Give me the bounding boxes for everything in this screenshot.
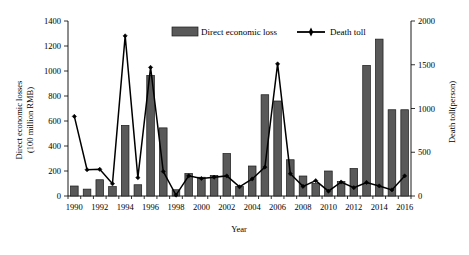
bar xyxy=(287,160,295,196)
left-axis-tick-labels: 0200400600800100012001400 xyxy=(44,16,61,201)
y2-tick-label: 2000 xyxy=(418,16,435,26)
y-tick-label: 800 xyxy=(48,91,61,101)
x-tick-label: 2010 xyxy=(320,202,337,212)
y2-tick-label: 1000 xyxy=(418,104,435,114)
right-axis-tick-labels: 0500100015002000 xyxy=(418,16,435,201)
x-tick-label: 1992 xyxy=(91,202,108,212)
legend-label-direct-economic-loss: Direct economic loss xyxy=(201,27,277,37)
x-tick-label: 1996 xyxy=(142,202,159,212)
y-tick-label: 1200 xyxy=(44,41,61,51)
y-tick-label: 400 xyxy=(48,141,61,151)
bar xyxy=(71,186,79,196)
x-tick-label: 2014 xyxy=(371,202,389,212)
bar xyxy=(350,169,358,197)
bar xyxy=(375,39,383,196)
data-point-marker xyxy=(85,168,89,172)
x-tick-label: 2008 xyxy=(295,202,312,212)
y-tick-label: 1000 xyxy=(44,66,61,76)
x-tick-label: 2006 xyxy=(269,202,286,212)
right-axis-ticks xyxy=(411,21,415,196)
x-tick-label: 2012 xyxy=(345,202,362,212)
data-point-marker xyxy=(72,114,76,118)
bar-series-direct-economic-loss xyxy=(71,39,409,196)
x-tick-label: 1990 xyxy=(66,202,83,212)
legend-label-death-toll: Death toll xyxy=(330,27,366,37)
x-tick-label: 2016 xyxy=(396,202,413,212)
x-tick-label: 2004 xyxy=(244,202,262,212)
bar xyxy=(312,184,320,197)
data-point-marker xyxy=(136,176,140,180)
y-tick-label: 200 xyxy=(48,166,61,176)
left-axis-ticks xyxy=(64,21,68,196)
y2-tick-label: 0 xyxy=(418,191,422,201)
bar xyxy=(159,128,167,196)
y2-axis-title: Death toll(person) xyxy=(447,81,457,143)
chart-legend: Direct economic loss Death toll xyxy=(172,27,366,37)
bar xyxy=(96,180,104,196)
y-tick-label: 0 xyxy=(57,191,61,201)
bar xyxy=(401,110,409,196)
bar xyxy=(363,65,371,196)
data-point-marker xyxy=(276,62,280,66)
bar xyxy=(274,101,282,196)
data-point-marker xyxy=(123,34,127,38)
legend-swatch-bar-icon xyxy=(172,27,198,36)
x-tick-label: 2002 xyxy=(218,202,235,212)
x-tick-label: 1994 xyxy=(117,202,135,212)
bar xyxy=(388,110,396,196)
bar xyxy=(121,125,129,196)
x-tick-label: 2000 xyxy=(193,202,210,212)
chart-canvas: 0200400600800100012001400 05001000150020… xyxy=(0,0,469,255)
legend-marker-icon xyxy=(309,28,313,37)
bar xyxy=(109,187,117,196)
y2-tick-label: 500 xyxy=(418,147,431,157)
y-tick-label: 600 xyxy=(48,116,61,126)
data-point-marker xyxy=(148,65,152,69)
x-axis-tick-labels: 1990199219941996199820002002200420062008… xyxy=(66,202,413,212)
y2-tick-label: 1500 xyxy=(418,60,435,70)
y-tick-label: 1400 xyxy=(44,16,61,26)
bar xyxy=(83,189,91,196)
y-axis-title-line2: (100 million RMB) xyxy=(25,87,35,153)
chart-figure: 0200400600800100012001400 05001000150020… xyxy=(0,0,469,255)
x-axis-title: Year xyxy=(231,224,247,234)
y-axis-title-line1: Direct economic losses xyxy=(14,81,24,160)
x-tick-label: 1998 xyxy=(167,202,184,212)
bar xyxy=(134,185,142,196)
